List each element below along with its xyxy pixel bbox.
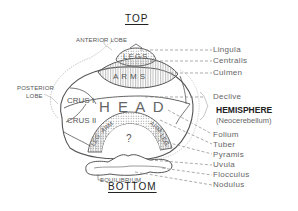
cerebellum-homunculus-diagram: TOP BOTTOM ANTERIOR LOBE POSTERIOR LOBE … — [0, 0, 298, 211]
legs-label: LEGS — [123, 53, 148, 61]
flocculus-label: Flocculus — [213, 171, 250, 179]
posterior-lobe-label-line2: LOBE — [26, 93, 43, 99]
crus-1-label: CRUS I — [67, 97, 94, 105]
nodulus-label: Nodulus — [213, 181, 244, 189]
top-label: TOP — [125, 14, 148, 24]
neocerebellum-label: (Neocerebellum) — [216, 117, 271, 125]
equilibrium-label: EQUILIBRIUM — [100, 177, 141, 183]
culmen-label: Culmen — [213, 69, 242, 77]
bottom-label: BOTTOM — [108, 182, 157, 192]
centralis-label: Centralis — [213, 57, 247, 65]
folium-label: Folium — [213, 131, 239, 139]
crus-2-label: CRUS II — [67, 117, 96, 125]
arms-label: ARMS — [113, 73, 148, 81]
lingula-label: Lingula — [213, 46, 241, 54]
pyramis-label: Pyramis — [213, 151, 244, 159]
posterior-lobe-label-line1: POSTERIOR — [17, 85, 54, 91]
head-label: H E A D — [99, 99, 166, 114]
anterior-lobe-label: ANTERIOR LOBE — [76, 37, 127, 43]
declive-label: Declive — [213, 93, 241, 101]
unknown-region-label: ? — [126, 134, 132, 144]
hemisphere-label: HEMISPHERE — [216, 106, 272, 115]
uvula-label: Uvula — [213, 161, 235, 169]
tuber-label: Tuber — [213, 141, 235, 149]
